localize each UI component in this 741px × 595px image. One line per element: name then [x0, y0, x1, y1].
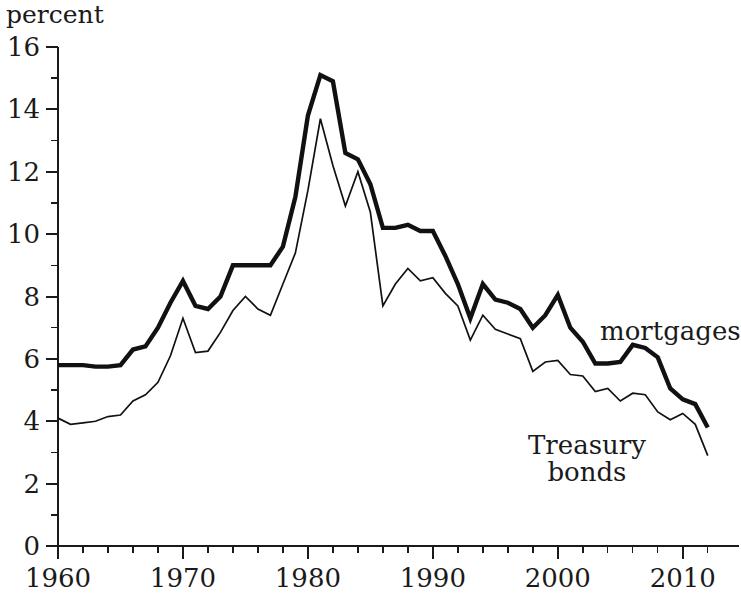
series-label-treasury-line-1: Treasury: [528, 432, 646, 459]
y-tick-label-2: 2: [0, 469, 40, 499]
y-tick-label-6: 6: [0, 344, 40, 374]
x-tick-label-1980: 1980: [263, 563, 353, 593]
x-tick-label-1970: 1970: [138, 563, 228, 593]
series-label-mortgages: mortgages: [600, 318, 741, 345]
series-lines: [58, 75, 708, 455]
x-tick-label-2000: 2000: [513, 563, 603, 593]
y-tick-label-8: 8: [0, 282, 40, 312]
series-line-treasury-bonds: [58, 119, 708, 456]
x-tick-label-1960: 1960: [13, 563, 103, 593]
series-line-mortgages: [58, 75, 708, 427]
series-label-treasury-bonds: Treasury bonds: [528, 432, 646, 486]
y-tick-label-4: 4: [0, 406, 40, 436]
y-tick-label-16: 16: [0, 32, 40, 62]
x-tick-label-2010: 2010: [638, 563, 728, 593]
y-tick-label-10: 10: [0, 219, 40, 249]
series-label-treasury-line-2: bonds: [528, 459, 646, 486]
y-tick-label-0: 0: [0, 531, 40, 561]
y-tick-label-12: 12: [0, 157, 40, 187]
y-tick-label-14: 14: [0, 94, 40, 124]
x-tick-label-1990: 1990: [388, 563, 478, 593]
